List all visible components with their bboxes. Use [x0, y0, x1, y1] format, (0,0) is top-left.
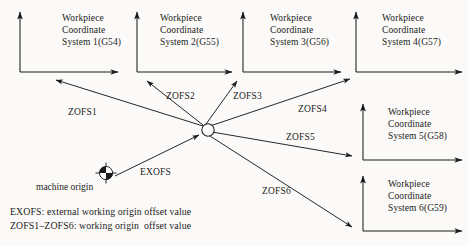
external-origin-node [202, 124, 214, 136]
cs-label-g58-line2: Coordinate [388, 118, 447, 130]
vector-zofs2 [147, 81, 203, 125]
offset-label-exofs: EXOFS [140, 167, 171, 177]
cs-label-g57-line3: System 4(G57) [382, 36, 441, 48]
cs-label-g55: Workpiece Coordinate System 2(G55) [160, 12, 219, 49]
vector-zofs4 [210, 79, 350, 126]
cs-label-g57-line2: Coordinate [382, 24, 441, 36]
cs-label-g59-line2: Coordinate [388, 190, 447, 202]
cs-label-g54: Workpiece Coordinate System 1(G54) [62, 12, 121, 49]
workpiece-coordinate-system-diagram: Workpiece Coordinate System 1(G54) Workp… [0, 0, 468, 246]
cs-label-g54-line1: Workpiece [62, 12, 121, 24]
cs-label-g58-line1: Workpiece [388, 106, 447, 118]
cs-label-g59-line3: System 6(G59) [388, 202, 447, 214]
offset-label-zofs1: ZOFS1 [68, 107, 97, 117]
cs-label-g54-line3: System 1(G54) [62, 36, 121, 48]
legend-line-exofs: EXOFS: external working origin offset va… [10, 206, 191, 217]
offset-label-zofs2: ZOFS2 [166, 91, 195, 101]
vector-zofs5 [212, 132, 352, 156]
vector-zofs6 [210, 136, 352, 227]
cs-label-g56-line1: Workpiece [270, 12, 329, 24]
offset-label-zofs4: ZOFS4 [298, 104, 327, 114]
cs-label-g55-line1: Workpiece [160, 12, 219, 24]
cs-label-g56-line3: System 3(G56) [270, 36, 329, 48]
cs-label-g55-line2: Coordinate [160, 24, 219, 36]
cs-label-g56: Workpiece Coordinate System 3(G56) [270, 12, 329, 49]
cs-label-g56-line2: Coordinate [270, 24, 329, 36]
cs-label-g57: Workpiece Coordinate System 4(G57) [382, 12, 441, 49]
vector-zofs3 [206, 81, 237, 124]
cs-label-g59: Workpiece Coordinate System 6(G59) [388, 178, 447, 215]
offset-label-zofs6: ZOFS6 [262, 186, 291, 196]
legend-line-zofs: ZOFS1–ZOFS6: working origin offset value [10, 220, 191, 231]
offset-label-zofs3: ZOFS3 [233, 91, 262, 101]
cs-label-g57-line1: Workpiece [382, 12, 441, 24]
machine-origin-label: machine origin [36, 182, 93, 192]
cs-label-g58-line3: System 5(G58) [388, 130, 447, 142]
cs-label-g58: Workpiece Coordinate System 5(G58) [388, 106, 447, 143]
cs-label-g55-line3: System 2(G55) [160, 36, 219, 48]
offset-label-zofs5: ZOFS5 [286, 132, 315, 142]
vector-zofs1 [56, 80, 203, 126]
cs-label-g54-line2: Coordinate [62, 24, 121, 36]
cs-label-g59-line1: Workpiece [388, 178, 447, 190]
machine-origin-icon [96, 163, 117, 184]
offset-vectors-group [56, 79, 352, 227]
